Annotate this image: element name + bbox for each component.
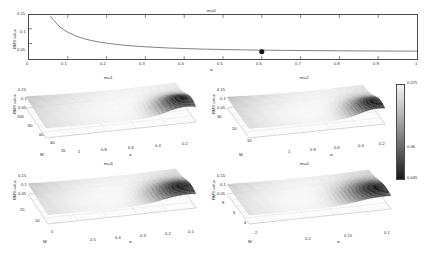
panel-m3-xtick-1: 0.4 bbox=[115, 236, 121, 240]
rms-colorbar bbox=[396, 84, 405, 180]
panel-m0-xtick-2: 0.2 bbox=[100, 62, 106, 66]
panel-m3-xlabel: σ bbox=[129, 240, 132, 244]
panel-title-m3: m=3 bbox=[104, 162, 113, 166]
panel-m0-xlabel: σ bbox=[210, 68, 213, 72]
panel-m2-zlabel: RMS value bbox=[212, 94, 216, 114]
panel-title-m1: m=1 bbox=[104, 76, 113, 80]
panel-m0-xtick-5: 0.5 bbox=[217, 62, 223, 66]
panel-m0-ylabel: RMS value bbox=[13, 29, 17, 49]
panel-m1-xlabel: σ bbox=[129, 153, 132, 157]
colorbar-tick-mid: 0.06 bbox=[407, 145, 415, 149]
panel-m4-ylabel: M bbox=[248, 240, 252, 244]
panel-m0-axes bbox=[28, 14, 418, 60]
panel-m3-ylabel: M bbox=[43, 240, 47, 244]
panel-m1-zlabel: RMS value bbox=[13, 94, 17, 114]
panel-m2-xlabel: σ bbox=[330, 153, 333, 157]
panel-m3-svg bbox=[24, 168, 199, 236]
panel-m0-ytick-1: 0.1 bbox=[20, 30, 26, 34]
panel-m2-ylabel: M bbox=[239, 153, 243, 157]
panel-m0-xtick-0: 0 bbox=[26, 62, 28, 66]
colorbar-tick-bottom: 0.045 bbox=[407, 176, 417, 180]
panel-m0-xtick-3: 0.3 bbox=[139, 62, 145, 66]
optimum-marker bbox=[259, 49, 264, 54]
panel-title-m4: m=4 bbox=[300, 162, 309, 166]
panel-m1-svg bbox=[24, 82, 199, 152]
panel-m3-zlabel: RMS value bbox=[13, 180, 17, 200]
panel-title-m0: m=0 bbox=[207, 9, 216, 13]
panel-m0-xtick-10: 1 bbox=[415, 62, 417, 66]
panel-m0-ytick-2: 0.15 bbox=[17, 12, 25, 16]
panel-m0-xtick-4: 0.4 bbox=[178, 62, 184, 66]
figure-canvas: m=0 RMS value 0.15 0.1 0.05 bbox=[0, 0, 438, 255]
panel-m2-ytick-0: 30 bbox=[217, 115, 222, 119]
panel-m4-zlabel: RMS value bbox=[212, 180, 216, 200]
panel-m0-xtick-9: 0.9 bbox=[373, 62, 379, 66]
panel-m4-xtick-0: 0.2 bbox=[305, 237, 311, 241]
panel-m2-svg bbox=[223, 82, 388, 152]
panel-m0-plot bbox=[29, 15, 417, 59]
panel-m0-xtick-8: 0.8 bbox=[334, 62, 340, 66]
panel-m0-ytick-0: 0.05 bbox=[17, 48, 25, 52]
panel-m0-xtick-6: 0.6 bbox=[256, 62, 262, 66]
panel-m4-xlabel: σ bbox=[337, 240, 340, 244]
panel-m4-svg bbox=[223, 168, 395, 236]
panel-title-m2: m=2 bbox=[300, 76, 309, 80]
colorbar-tick-top: 0.075 bbox=[407, 81, 417, 85]
panel-m0-xtick-1: 0.1 bbox=[61, 62, 67, 66]
panel-m3-xtick-0: 0.5 bbox=[90, 238, 96, 242]
panel-m0-xtick-7: 0.7 bbox=[295, 62, 301, 66]
panel-m1-ylabel: M bbox=[40, 153, 44, 157]
panel-m1-ytick-0: 100 bbox=[17, 115, 24, 119]
